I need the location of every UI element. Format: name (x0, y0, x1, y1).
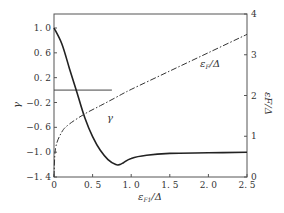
x-tick-label: 1. 0 (123, 180, 140, 190)
y-tick-label: −0. 2 (26, 98, 51, 108)
gamma-curve-label: γ (107, 112, 113, 123)
x-axis-label: εF1/Δ (138, 191, 162, 203)
y2-tick-label: 3 (251, 50, 257, 60)
y2-axis-label: εF/Δ (263, 92, 274, 115)
y-axis-ticks: 1. 00. 60. 2−0. 2−0. 6−1. 0−1. 4 (26, 23, 57, 182)
y-tick-label: −1. 4 (26, 172, 51, 182)
y-tick-label: 1. 0 (34, 23, 51, 33)
chart: 00. 51. 01. 52. 02. 5 1. 00. 60. 2−0. 2−… (0, 0, 284, 213)
y-tick-label: −1. 0 (26, 147, 51, 157)
y2-tick-label: 1 (251, 131, 257, 141)
x-tick-label: 2. 0 (200, 180, 217, 190)
y2-tick-label: 2 (251, 91, 257, 101)
x-tick-label: 1. 5 (161, 180, 178, 190)
y2-tick-label: 0 (251, 172, 257, 182)
x-tick-label: 0. 5 (84, 180, 101, 190)
y2-tick-label: 4 (251, 9, 257, 19)
y-tick-label: 0. 6 (34, 48, 51, 58)
ef-curve-label: εF/Δ (200, 58, 220, 70)
y-axis-label: γ (11, 102, 22, 108)
y-tick-label: −0. 6 (26, 122, 51, 132)
x-axis-ticks: 00. 51. 01. 52. 02. 5 (51, 174, 256, 190)
x-tick-label: 0 (51, 180, 57, 190)
y-tick-label: 0. 2 (34, 73, 51, 83)
